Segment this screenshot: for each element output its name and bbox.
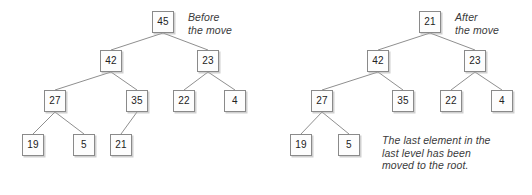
tree-edge (451, 72, 475, 90)
tree-edge (33, 112, 55, 134)
tree-edge (378, 72, 403, 90)
tree-node: 4 (224, 90, 246, 112)
tree-node: 45 (152, 11, 174, 33)
explanation-note: The last element in thelast level has be… (382, 134, 491, 172)
tree-edge (208, 72, 235, 90)
tree-node: 19 (22, 134, 44, 156)
after-caption: Afterthe move (455, 11, 499, 36)
tree-edge (184, 72, 208, 90)
tree-node: 21 (110, 134, 132, 156)
before-caption: Beforethe move (188, 11, 232, 36)
tree-node: 23 (197, 50, 219, 72)
tree-node: 42 (100, 50, 122, 72)
tree-edge (55, 72, 111, 90)
tree-node: 22 (173, 90, 195, 112)
tree-node: 21 (419, 11, 441, 33)
tree-edge (121, 112, 137, 134)
tree-node: 35 (126, 90, 148, 112)
tree-node: 5 (338, 134, 360, 156)
tree-node: 27 (311, 90, 333, 112)
tree-node: 19 (290, 134, 312, 156)
tree-node: 22 (440, 90, 462, 112)
note-line2: last level has been (382, 147, 471, 159)
before-caption-line2: the move (188, 24, 232, 36)
tree-node: 23 (464, 50, 486, 72)
note-line1: The last element in the (382, 134, 491, 146)
before-caption-line1: Before (188, 11, 220, 23)
tree-edge (378, 33, 430, 50)
tree-edge (322, 72, 378, 90)
tree-edge (301, 112, 322, 134)
tree-edge (475, 72, 502, 90)
note-line3: moved to the root. (382, 159, 468, 171)
tree-node: 5 (73, 134, 95, 156)
tree-node: 42 (367, 50, 389, 72)
tree-node: 4 (491, 90, 513, 112)
tree-node: 35 (392, 90, 414, 112)
tree-edge (111, 72, 137, 90)
tree-edge (322, 112, 349, 134)
tree-edge (55, 112, 84, 134)
heap-removal-diagram: 454223273522419521 2142232735224195 Befo… (0, 0, 532, 195)
after-caption-line1: After (455, 11, 478, 23)
tree-node: 27 (44, 90, 66, 112)
tree-edge (111, 33, 163, 50)
after-caption-line2: the move (455, 24, 499, 36)
